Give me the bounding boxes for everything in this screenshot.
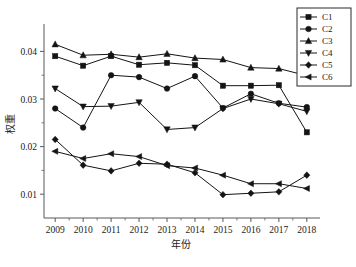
data-point-c1-2013 [164, 60, 169, 65]
series-c4 [52, 86, 310, 133]
y-tick-label: 0.01 [20, 190, 37, 200]
data-point-c1-2009 [53, 54, 58, 59]
series-c3 [52, 41, 310, 78]
data-point-c1-2012 [136, 62, 141, 67]
legend-marker-c2 [306, 26, 312, 32]
series-c1 [53, 54, 310, 135]
data-point-c2-2012 [136, 74, 142, 80]
x-axis-title: 年份 [171, 238, 191, 250]
data-point-c1-2010 [81, 63, 86, 68]
series-line-c1 [55, 56, 307, 132]
data-point-c2-2011 [108, 72, 114, 78]
x-tick-label: 2017 [269, 225, 288, 235]
legend: C1C2C3C4C5C6 [297, 8, 351, 86]
data-point-c2-2016 [248, 91, 254, 97]
y-tick-label: 0.02 [20, 142, 37, 152]
x-tick-label: 2009 [46, 225, 65, 235]
legend-label-c6[interactable]: C6 [322, 72, 333, 82]
data-point-c1-2017 [276, 83, 281, 88]
series-c2 [52, 72, 309, 130]
series-line-c6 [55, 151, 307, 188]
x-tick-label: 2018 [297, 225, 316, 235]
x-tick-label: 2014 [185, 225, 204, 235]
series-line-c2 [55, 75, 307, 127]
data-point-c4-2018 [304, 109, 310, 115]
y-tick-label: 0.03 [20, 95, 37, 105]
legend-label-c2[interactable]: C2 [322, 24, 333, 34]
data-point-c5-2011 [108, 168, 114, 175]
data-point-c5-2017 [276, 189, 282, 196]
data-point-c5-2012 [136, 160, 142, 167]
x-tick-label: 2016 [241, 225, 260, 235]
legend-label-c1[interactable]: C1 [322, 12, 333, 22]
x-tick-label: 2011 [102, 225, 121, 235]
chart-figure: 0.010.020.030.04200920102011201220132014… [0, 0, 356, 267]
data-point-c2-2009 [52, 106, 58, 112]
data-point-c3-2009 [52, 41, 58, 47]
data-point-c6-2012 [136, 154, 142, 160]
data-point-c1-2015 [220, 83, 225, 88]
x-tick-label: 2012 [130, 225, 149, 235]
legend-marker-c1 [306, 14, 311, 19]
data-point-c6-2015 [220, 172, 226, 178]
y-axis-title: 权重 [4, 114, 16, 134]
series-c6 [52, 148, 310, 191]
line-chart: 0.010.020.030.04200920102011201220132014… [0, 0, 356, 267]
x-tick-label: 2010 [74, 225, 93, 235]
legend-label-c3[interactable]: C3 [322, 36, 333, 46]
data-point-c6-2010 [80, 156, 86, 162]
data-point-c6-2018 [303, 185, 309, 191]
data-point-c5-2018 [304, 172, 310, 179]
data-point-c4-2009 [52, 86, 58, 92]
x-tick-label: 2013 [158, 225, 177, 235]
data-point-c4-2013 [164, 127, 170, 133]
data-point-c1-2014 [192, 63, 197, 68]
data-point-c6-2016 [247, 181, 253, 187]
data-point-c1-2016 [248, 83, 253, 88]
data-point-c6-2009 [52, 148, 58, 154]
legend-label-c4[interactable]: C4 [322, 48, 333, 58]
y-tick-label: 0.04 [20, 47, 37, 57]
data-point-c6-2017 [275, 181, 281, 187]
data-point-c5-2016 [248, 190, 254, 197]
data-point-c2-2013 [164, 86, 170, 92]
data-point-c2-2010 [80, 125, 86, 131]
data-point-c2-2014 [192, 73, 198, 79]
data-point-c6-2011 [108, 151, 114, 157]
data-point-c1-2018 [304, 130, 309, 135]
data-point-c3-2013 [164, 50, 170, 56]
series-line-c3 [55, 44, 307, 75]
legend-label-c5[interactable]: C5 [322, 60, 333, 70]
x-tick-label: 2015 [213, 225, 232, 235]
